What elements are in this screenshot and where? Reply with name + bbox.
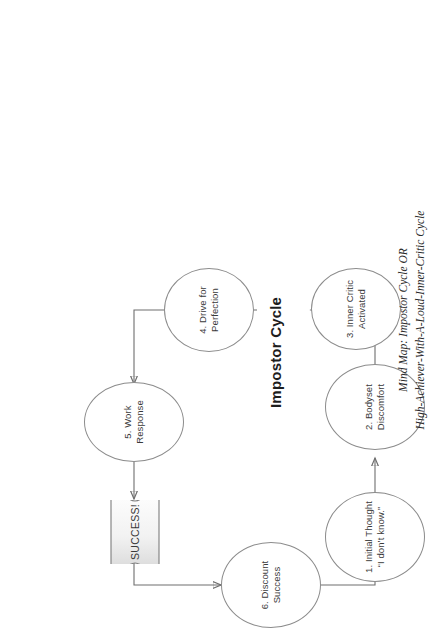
node-drive-for-perfection[interactable]: 4. Drive for Perfection xyxy=(164,268,254,352)
diagram-caption: Mind Map: Impostor Cycle OR High-Achieve… xyxy=(395,190,428,450)
node-drive-for-perfection-label: 4. Drive for Perfection xyxy=(197,286,221,334)
node-discount-success[interactable]: 6. Discount Success xyxy=(221,542,321,628)
rotated-page-frame: SUCCESS! 6. Discount Success 5. Work Res… xyxy=(0,0,439,640)
node-discount-success-label: 6. Discount Success xyxy=(259,561,283,610)
diagram-canvas: SUCCESS! 6. Discount Success 5. Work Res… xyxy=(0,0,439,640)
edge-n4-n5 xyxy=(134,310,164,384)
caption-line-2: High-Achiever-With-A-Loud-Inner-Critic C… xyxy=(412,190,429,450)
caption-line-1: Mind Map: Impostor Cycle OR xyxy=(395,190,412,450)
diagram-title: Impostor Cycle xyxy=(267,297,284,408)
node-work-response[interactable]: 5. Work Response xyxy=(84,382,184,462)
node-inner-critic-activated-label: 3. Inner Critic Activated xyxy=(344,280,368,338)
success-banner: SUCCESS! xyxy=(88,500,182,564)
node-work-response-label: 5. Work Response xyxy=(122,387,146,457)
success-banner-label: SUCCESS! xyxy=(88,500,182,564)
node-inner-critic-activated[interactable]: 3. Inner Critic Activated xyxy=(311,268,401,350)
node-bodyset-discomfort-label: 2. Bodyset Discomfort xyxy=(363,384,387,430)
node-initial-thought[interactable]: 1. Initial Thought “I don’t know.” xyxy=(325,492,425,582)
node-initial-thought-label: 1. Initial Thought “I don’t know.” xyxy=(363,501,387,573)
